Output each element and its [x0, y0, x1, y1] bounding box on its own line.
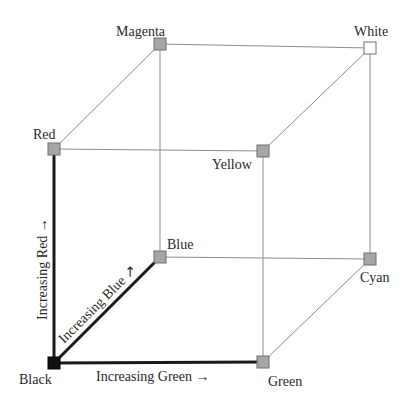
edge-blue-cyan [160, 257, 370, 259]
vertex-label-green: Green [268, 374, 302, 389]
vertex-label-black: Black [19, 372, 52, 387]
vertex-label-yellow: Yellow [212, 157, 253, 172]
vertex-label-cyan: Cyan [360, 270, 390, 285]
vertex-marker-green [257, 356, 269, 368]
vertex-marker-cyan [364, 253, 376, 265]
vertex-label-red: Red [33, 127, 56, 142]
cube-svg: Black Red Green Blue Yellow Magenta Cyan… [0, 0, 418, 405]
vertex-marker-blue [154, 251, 166, 263]
axis-label-blue: Increasing Blue ↗ [56, 262, 140, 346]
rgb-color-cube-diagram: Black Red Green Blue Yellow Magenta Cyan… [0, 0, 418, 405]
vertex-marker-white [364, 42, 376, 54]
edge-black-green [54, 362, 263, 363]
vertex-label-blue: Blue [167, 237, 193, 252]
axis-label-red: Increasing Red → [35, 218, 50, 320]
edges-layer [54, 44, 370, 363]
vertex-marker-yellow [257, 145, 269, 157]
edge-red-magenta [54, 44, 160, 149]
vertex-marker-magenta [154, 38, 166, 50]
edge-black-blue [54, 257, 160, 363]
labels-layer: Black Red Green Blue Yellow Magenta Cyan… [19, 24, 390, 389]
vertex-label-white: White [354, 24, 388, 39]
edge-green-cyan [263, 259, 370, 362]
edge-yellow-white [263, 48, 370, 151]
edge-magenta-white [160, 44, 370, 48]
vertex-label-magenta: Magenta [116, 24, 166, 39]
edge-red-yellow [54, 149, 263, 151]
vertex-marker-red [48, 143, 60, 155]
axis-label-green: Increasing Green → [96, 369, 210, 384]
vertex-marker-black [48, 357, 60, 369]
